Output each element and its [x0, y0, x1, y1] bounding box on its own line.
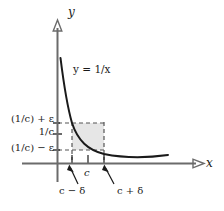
- pointer-arrow-c-plus-delta-icon: [102, 165, 109, 173]
- y-tick-label-one-over-c: 1/c: [2, 127, 54, 137]
- figure-canvas: [0, 0, 224, 211]
- x-tick-label-c-minus-delta: c − δ: [59, 186, 85, 196]
- curve-equation-label: y = 1/x: [73, 64, 111, 75]
- x-axis-label: x: [206, 157, 213, 169]
- x-tick-label-c-plus-delta: c + δ: [117, 186, 143, 196]
- y-tick-label-epsilon-upper: (1/c) + ε: [2, 114, 54, 124]
- y-axis-label: y: [68, 6, 75, 18]
- x-tick-label-c: c: [84, 168, 90, 178]
- pointer-arrow-c-minus-delta-icon: [67, 165, 74, 173]
- figure-container: y x y = 1/x (1/c) + ε 1/c (1/c) − ε c c …: [0, 0, 224, 211]
- y-tick-label-epsilon-lower: (1/c) − ε: [2, 143, 54, 153]
